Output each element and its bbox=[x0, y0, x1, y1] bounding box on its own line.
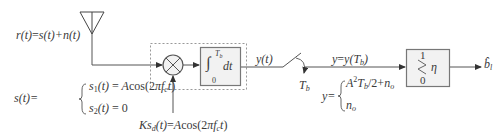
signal-def-case1: s1(t) = Acos(2πfct) bbox=[89, 80, 175, 93]
sample-values-brace bbox=[338, 81, 345, 111]
signal-def-brace bbox=[79, 84, 86, 114]
sampled-value-label: y=y(Tb) bbox=[332, 53, 368, 66]
received-eq: = bbox=[32, 28, 39, 42]
sample-values-case1: A2Tb/2+no bbox=[346, 77, 394, 90]
reference-signal-label: Ksd(t)=Acos(2πfct) bbox=[139, 119, 227, 132]
threshold-label: η bbox=[431, 61, 437, 74]
sampling-period-label: Tb bbox=[299, 79, 310, 92]
decision-top-label: 1 bbox=[420, 49, 426, 62]
input-wire bbox=[92, 34, 162, 65]
correlator-receiver-diagram: r(t)=s(t)+n(t) s(t)= s1(t) = Acos(2πfct)… bbox=[0, 0, 501, 138]
received-rhs: s(t)+n(t) bbox=[39, 28, 80, 42]
signal-wires bbox=[0, 0, 501, 138]
received-signal-label: r(t)=s(t)+n(t) bbox=[16, 29, 80, 42]
decision-bottom-label: 0 bbox=[420, 74, 426, 87]
sample-values-case2: no bbox=[346, 99, 356, 112]
decision-block bbox=[407, 50, 450, 87]
sample-values-lhs: y= bbox=[322, 90, 335, 103]
antenna-icon bbox=[80, 12, 104, 34]
signal-def-lhs: s(t)= bbox=[14, 92, 38, 105]
integral-lower-limit: 0 bbox=[212, 74, 216, 87]
integrator-output-label: y(t) bbox=[256, 53, 273, 66]
multiplier-icon bbox=[163, 55, 183, 75]
received-lhs: r(t) bbox=[16, 28, 32, 42]
integral-sign: ∫ bbox=[206, 56, 210, 69]
integral-upper-limit: Tb bbox=[215, 47, 222, 60]
sampling-switch-icon bbox=[283, 53, 305, 73]
output-bit-label: b̂l bbox=[484, 58, 492, 71]
integral-body: dt bbox=[223, 60, 232, 73]
signal-def-case2: s2(t) = 0 bbox=[89, 102, 128, 115]
